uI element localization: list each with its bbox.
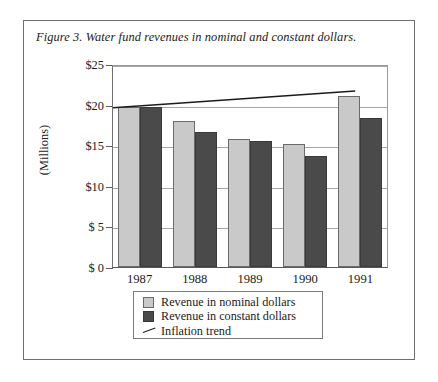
x-axis-tick-label: 1988 [165, 272, 225, 287]
constant-swatch-icon [143, 311, 154, 322]
legend-item: Inflation trend [143, 324, 322, 339]
legend-item: Revenue in nominal dollars [143, 295, 322, 310]
inflation-trend-line [113, 66, 387, 267]
x-axis-tick-label: 1991 [330, 272, 390, 287]
y-axis-tick-label: $10 [58, 179, 104, 194]
trend-line-icon [143, 326, 154, 337]
y-axis-tick-label: $20 [58, 98, 104, 113]
x-axis-tick-label: 1987 [110, 272, 170, 287]
plot-area [112, 65, 388, 268]
legend-item-label: Revenue in constant dollars [161, 309, 296, 324]
chart-legend: Revenue in nominal dollarsRevenue in con… [133, 291, 323, 339]
legend-item-label: Revenue in nominal dollars [161, 295, 295, 310]
x-axis-tick-label: 1990 [275, 272, 335, 287]
y-axis-tick-label: $ 0 [58, 261, 104, 276]
legend-item-label: Inflation trend [161, 324, 231, 339]
nominal-swatch-icon [143, 297, 154, 308]
y-axis-tick-label: $15 [58, 139, 104, 154]
x-axis-tick-label: 1989 [220, 272, 280, 287]
y-axis-tick-label: $25 [58, 58, 104, 73]
y-axis-tick-mark [106, 268, 113, 269]
y-axis-tick-label: $ 5 [58, 220, 104, 235]
y-axis-title: (Millions) [37, 125, 52, 175]
figure-title: Figure 3. Water fund revenues in nominal… [36, 30, 416, 45]
legend-item: Revenue in constant dollars [143, 310, 322, 325]
